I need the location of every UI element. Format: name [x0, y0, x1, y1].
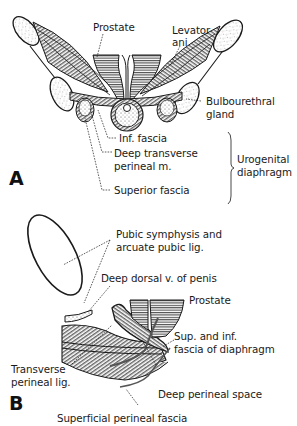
label-deep-transverse-line1: Deep transverse	[114, 147, 198, 160]
anatomy-figure: Prostate Levator ani Bulbourethral gland…	[0, 0, 297, 426]
label-superior-fascia: Superior fascia	[114, 184, 189, 197]
label-urogenital-line2: diaphragm	[237, 166, 292, 179]
label-levator-ani-line1: Levator	[172, 24, 210, 37]
label-superficial-perineal-fascia: Superficial perineal fascia	[57, 412, 187, 425]
label-prostate-a: Prostate	[93, 21, 135, 34]
label-urogenital-line1: Urogenital	[237, 153, 289, 166]
label-bulbourethral-line1: Bulbourethral	[206, 95, 275, 108]
label-inf-fascia: Inf. fascia	[119, 132, 167, 145]
label-sup-inf-fascia-line2: fascia of diaphragm	[174, 343, 275, 356]
label-prostate-b: Prostate	[189, 294, 231, 307]
panel-letter-b: B	[9, 392, 23, 414]
label-bulbourethral-line2: gland	[206, 108, 234, 121]
label-deep-dorsal-vein: Deep dorsal v. of penis	[101, 272, 217, 285]
label-transverse-perineal-line2: perineal lig.	[11, 376, 71, 389]
label-deep-transverse-line2: perineal m.	[114, 160, 171, 173]
label-levator-ani-line2: ani	[172, 36, 187, 49]
label-pubic-symphysis-line1: Pubic symphysis and	[116, 228, 222, 241]
label-deep-perineal-space: Deep perineal space	[158, 388, 262, 401]
label-sup-inf-fascia-line1: Sup. and inf.	[174, 330, 237, 343]
label-pubic-symphysis-line2: arcuate pubic lig.	[116, 241, 204, 254]
panel-letter-a: A	[9, 167, 24, 189]
label-transverse-perineal-line1: Transverse	[11, 363, 66, 376]
